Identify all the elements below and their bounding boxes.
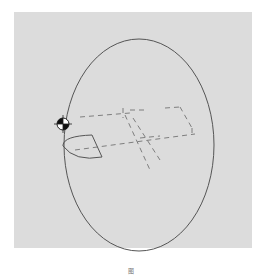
diagram-canvas <box>0 0 262 280</box>
figure-caption: 图 <box>0 266 262 275</box>
figure-panel <box>14 12 252 248</box>
